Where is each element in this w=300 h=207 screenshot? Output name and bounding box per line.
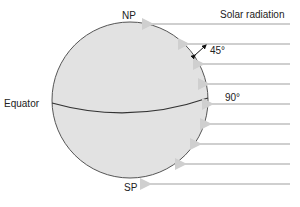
angle-45-arrow	[194, 46, 205, 56]
angle-45-label: 45°	[210, 45, 225, 56]
earth-solar-radiation-diagram	[0, 0, 300, 207]
north-pole-label: NP	[122, 10, 136, 21]
solar-radiation-label: Solar radiation	[220, 9, 284, 20]
earth-sphere	[52, 22, 208, 178]
equator-label: Equator	[4, 98, 39, 109]
angle-90-label: 90°	[225, 92, 240, 103]
south-pole-label: SP	[124, 182, 137, 193]
